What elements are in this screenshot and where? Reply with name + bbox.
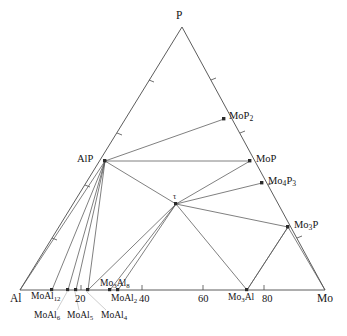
- ternary-phase-diagram: P Al Mo AlP MoP2 MoP Mo4P3 Mo3P τ MoAl12…: [0, 0, 347, 336]
- tieline-tau-mop: [176, 161, 250, 204]
- phase-label-moal5-sub: 5: [90, 314, 93, 321]
- point-tau[interactable]: [174, 202, 177, 205]
- tieline-alp-al: [20, 161, 105, 290]
- triangle-outline: [20, 27, 325, 290]
- phase-label-moal4-sub: 4: [124, 314, 127, 321]
- point-moal5[interactable]: [74, 288, 77, 291]
- phase-label-moal2-sub: 2: [134, 297, 137, 304]
- tieline-tau-moal2: [118, 204, 176, 290]
- point-alp[interactable]: [103, 159, 106, 162]
- phase-label-moal4-base: MoAl: [101, 310, 124, 320]
- phase-label-mo3p-pre: Mo: [294, 219, 309, 230]
- phase-label-moal6-sub: 6: [57, 314, 60, 321]
- phase-label-mo4p3: Mo4P3: [268, 176, 296, 187]
- tick-left-60: [117, 133, 122, 135]
- point-mo4p3[interactable]: [260, 181, 263, 184]
- tick-label-20: 20: [75, 294, 86, 305]
- tieline-mo3p-mo: [288, 227, 325, 290]
- point-mo3p[interactable]: [286, 225, 289, 228]
- phase-label-mo3p-mid: P: [312, 219, 318, 230]
- vertex-label-p: P: [176, 10, 182, 22]
- tick-left-80: [149, 80, 154, 82]
- tie-lines: [20, 119, 325, 290]
- phase-label-mo3al8-pre: Mo: [100, 278, 113, 288]
- phase-label-moal12-base: MoAl: [31, 291, 54, 301]
- vertex-label-mo: Mo: [317, 293, 333, 305]
- tick-label-80: 80: [262, 294, 273, 305]
- tieline-tau-mo3p: [176, 204, 288, 227]
- phase-label-moal6: MoAl6: [34, 311, 60, 321]
- phase-points: [50, 117, 289, 291]
- phase-label-mop2-sub: 2: [249, 114, 253, 123]
- phase-label-mo3al8-mid: Al: [117, 278, 127, 288]
- phase-label-mop: MoP: [256, 154, 276, 165]
- tieline-tau-mo4p3: [176, 183, 262, 204]
- tick-label-40: 40: [139, 294, 150, 305]
- phase-label-mo3al8: Mo3Al8: [100, 279, 130, 289]
- tieline-alp-moal6: [68, 161, 105, 290]
- phase-label-mo3p: Mo3P: [294, 220, 318, 231]
- tick-right-20: [211, 78, 216, 80]
- phase-label-tau: τ: [173, 193, 176, 201]
- point-mop2[interactable]: [222, 117, 225, 120]
- phase-label-mo3al-pre: Mo: [228, 292, 241, 302]
- phase-label-moal12: MoAl12: [31, 292, 61, 302]
- phase-label-mo3al: Mo3Al: [228, 293, 254, 303]
- phase-label-mo4p3-sub2: 3: [292, 179, 296, 188]
- phase-label-moal12-sub: 12: [54, 295, 61, 302]
- phase-label-moal6-base: MoAl: [34, 310, 57, 320]
- tieline-mo3al-tau-b: [247, 227, 288, 290]
- tick-right-40: [240, 131, 245, 133]
- phase-label-alp: AlP: [77, 154, 93, 165]
- phase-label-moal2: MoAl2: [111, 294, 137, 304]
- tieline-alp-mop2: [105, 119, 224, 161]
- point-mop[interactable]: [248, 159, 251, 162]
- phase-label-mo3al8-sub2: 8: [126, 282, 129, 289]
- point-moal6[interactable]: [66, 288, 69, 291]
- edge-al-p: [20, 27, 182, 290]
- phase-label-moal2-base: MoAl: [111, 293, 134, 303]
- vertex-label-al: Al: [10, 293, 22, 305]
- tick-right-80: [297, 236, 302, 238]
- ternary-diagram-canvas: [0, 0, 347, 336]
- leader-moal4: [87, 292, 106, 310]
- tick-label-60: 60: [198, 294, 209, 305]
- phase-label-mop2-base: MoP: [229, 110, 249, 121]
- phase-label-moal5: MoAl5: [67, 311, 93, 321]
- tieline-alp-tau: [105, 161, 176, 204]
- phase-label-mo3al-mid: Al: [245, 292, 255, 302]
- phase-label-mop2: MoP2: [229, 111, 253, 122]
- tieline-tau-mo3al: [176, 204, 247, 290]
- phase-label-mo4p3-pre: Mo: [268, 175, 283, 186]
- edge-p-mo: [182, 27, 325, 290]
- point-mo3al[interactable]: [245, 288, 248, 291]
- phase-label-moal5-base: MoAl: [67, 310, 90, 320]
- phase-label-moal4: MoAl4: [101, 311, 127, 321]
- point-moal4[interactable]: [86, 288, 89, 291]
